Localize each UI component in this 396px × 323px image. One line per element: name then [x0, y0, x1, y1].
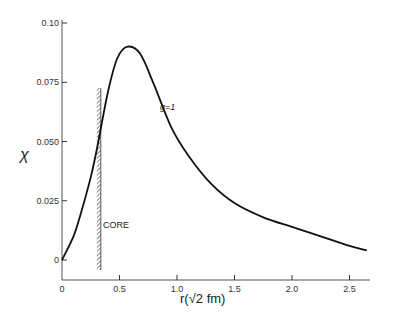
- x-tick-label: 0: [59, 284, 64, 294]
- axes: 00.0250.0500.0750.1000.51.01.52.02.5: [36, 18, 370, 294]
- x-tick-label: 2.0: [286, 284, 299, 294]
- y-axis-title: χ: [18, 146, 29, 163]
- y-tick-label: 0.10: [41, 18, 59, 28]
- core-label: CORE: [103, 220, 129, 230]
- y-tick-label: 0.075: [36, 77, 59, 87]
- y-tick-label: 0: [54, 255, 59, 265]
- y-tick-label: 0.025: [36, 196, 59, 206]
- curve-label: g=1: [160, 102, 175, 112]
- x-tick-label: 0.5: [113, 284, 126, 294]
- x-tick-label: 1.5: [228, 284, 241, 294]
- chart: 00.0250.0500.0750.1000.51.01.52.02.5 χ r…: [0, 0, 396, 323]
- core-hatch: [97, 88, 101, 270]
- core-wall: [97, 88, 101, 270]
- y-tick-label: 0.050: [36, 137, 59, 147]
- x-tick-label: 2.5: [343, 284, 356, 294]
- x-axis-title: r(√2 fm): [180, 291, 225, 306]
